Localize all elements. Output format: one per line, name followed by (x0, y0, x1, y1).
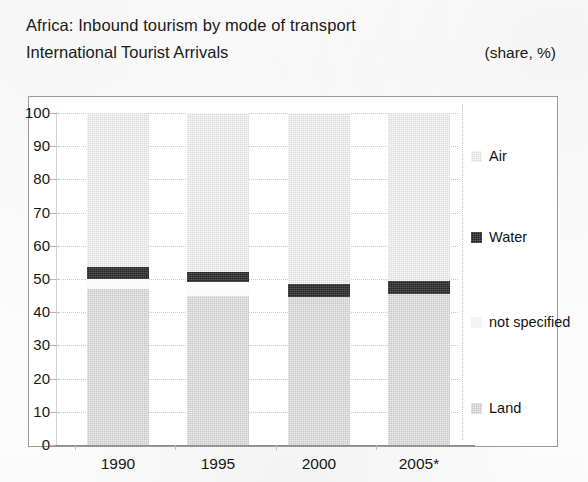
y-tick-mark (50, 345, 59, 346)
bar-segment-2000-air[interactable] (288, 113, 350, 284)
land-swatch-icon (471, 403, 482, 414)
bar-segment-1990-air[interactable] (87, 113, 149, 267)
bar-segment-1995-not-specified[interactable] (187, 282, 249, 295)
y-tick-mark (50, 312, 59, 313)
x-tick-mark (376, 445, 377, 450)
y-tick-label: 0 (10, 437, 50, 452)
not-specified-swatch-icon (471, 317, 482, 328)
y-tick-label: 40 (10, 304, 50, 319)
x-tick-label: 1990 (73, 455, 163, 473)
legend-item-land[interactable]: Land (471, 400, 521, 416)
unit-note: (share, %) (485, 44, 557, 62)
bar-segment-1990-not-specified[interactable] (87, 279, 149, 289)
x-tick-mark (175, 445, 176, 450)
bar-segment-2005--air[interactable] (388, 113, 450, 281)
air-swatch-icon (471, 151, 482, 162)
bar-segment-1990-land[interactable] (87, 289, 149, 445)
y-tick-label: 30 (10, 337, 50, 352)
y-axis-labels: 1009080706050403020100 (6, 0, 50, 482)
legend-label-air: Air (489, 148, 507, 164)
bar-1990[interactable] (87, 113, 149, 445)
y-tick-mark (50, 379, 59, 380)
plot-area (59, 113, 457, 445)
bar-segment-1995-land[interactable] (187, 296, 249, 445)
bar-segment-2000-land[interactable] (288, 297, 350, 445)
legend-item-air[interactable]: Air (471, 148, 507, 164)
x-tick-label: 2000 (274, 455, 364, 473)
y-tick-label: 50 (10, 271, 50, 286)
y-tick-mark (50, 146, 59, 147)
y-tick-label: 70 (10, 205, 50, 220)
y-tick-mark (50, 213, 59, 214)
y-tick-label: 20 (10, 371, 50, 386)
bar-segment-1995-water[interactable] (187, 272, 249, 282)
x-tick-label: 1995 (173, 455, 263, 473)
x-tick-mark (75, 445, 76, 450)
chart-header: Africa: Inbound tourism by mode of trans… (26, 16, 566, 62)
legend-label-water: Water (489, 229, 527, 245)
legend-label-not-specified: not specified (489, 314, 570, 330)
page-title: Africa: Inbound tourism by mode of trans… (26, 16, 566, 35)
legend-item-not-specified[interactable]: not specified (471, 314, 570, 330)
bar-segment-1995-air[interactable] (187, 113, 249, 272)
chart-legend: Air Water not specified Land (462, 104, 559, 440)
y-tick-label: 10 (10, 404, 50, 419)
y-tick-mark (50, 279, 59, 280)
water-swatch-icon (471, 232, 482, 243)
y-tick-mark (50, 412, 59, 413)
legend-item-water[interactable]: Water (471, 229, 527, 245)
x-tick-label: 2005* (374, 455, 464, 473)
x-tick-mark (276, 445, 277, 450)
x-axis-line (55, 445, 475, 446)
y-tick-label: 60 (10, 238, 50, 253)
y-tick-label: 90 (10, 138, 50, 153)
bar-segment-2000-water[interactable] (288, 284, 350, 297)
y-tick-label: 100 (10, 105, 50, 120)
y-axis-line (56, 112, 57, 446)
y-tick-mark (50, 179, 59, 180)
bar-segment-2005--land[interactable] (388, 294, 450, 445)
bar-2005-[interactable] (388, 113, 450, 445)
y-tick-label: 80 (10, 171, 50, 186)
bar-segment-1990-water[interactable] (87, 267, 149, 279)
y-tick-mark (50, 246, 59, 247)
bar-2000[interactable] (288, 113, 350, 445)
bar-1995[interactable] (187, 113, 249, 445)
bar-segment-2005--water[interactable] (388, 281, 450, 294)
chart-subtitle: International Tourist Arrivals (26, 43, 228, 62)
y-tick-mark (50, 113, 59, 114)
legend-label-land: Land (489, 400, 521, 416)
